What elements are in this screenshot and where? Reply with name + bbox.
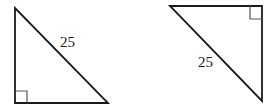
hypotenuse-label: 25 (198, 54, 213, 70)
right-triangle-shape (170, 6, 262, 101)
left-right-triangle: 25 (15, 8, 108, 103)
right-angle-marker (250, 6, 262, 19)
triangles-figure: 25 25 (0, 0, 275, 109)
right-right-triangle: 25 (170, 6, 262, 101)
hypotenuse-label: 25 (60, 34, 75, 50)
right-angle-marker (15, 91, 27, 103)
left-triangle-shape (15, 8, 108, 103)
